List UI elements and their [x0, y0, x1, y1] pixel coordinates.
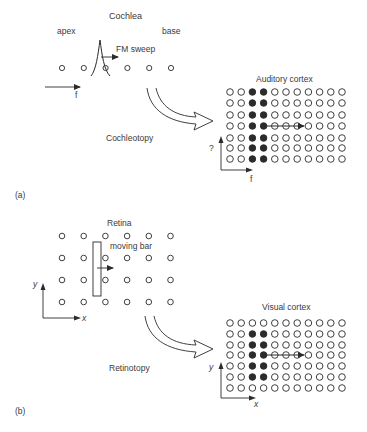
neuron [283, 135, 290, 142]
neuron [339, 145, 346, 152]
auditory-axes [221, 140, 250, 170]
neuron [339, 385, 346, 392]
neuron [227, 320, 234, 327]
neuron [294, 156, 301, 163]
active-neuron [249, 145, 256, 152]
neuron [168, 255, 174, 261]
cochleotopy-arrow-icon [147, 88, 213, 130]
neuron [316, 89, 323, 96]
moving-bar-icon [93, 242, 101, 296]
neuron [124, 255, 130, 261]
neuron [339, 112, 346, 119]
neuron [272, 100, 279, 107]
neuron [168, 65, 173, 70]
active-neuron [249, 363, 256, 370]
neuron [305, 342, 312, 349]
auditory-cortex-grid [227, 89, 346, 163]
neuron [339, 123, 346, 130]
neuron [339, 363, 346, 370]
active-neuron [249, 374, 256, 381]
neuron [305, 112, 312, 119]
neuron [103, 277, 109, 283]
neuron [316, 363, 323, 370]
neuron [227, 331, 234, 338]
neuron [272, 145, 279, 152]
active-neuron [249, 100, 256, 107]
neuron [305, 123, 312, 130]
neuron [328, 320, 335, 327]
neuron [81, 255, 87, 261]
visual-axes [221, 366, 253, 398]
active-neuron [260, 100, 267, 107]
active-neuron [260, 156, 267, 163]
neuron [316, 320, 323, 327]
neuron [294, 374, 301, 381]
active-neuron [260, 342, 267, 349]
neuron [238, 374, 245, 381]
neuron [283, 145, 290, 152]
active-neuron [260, 374, 267, 381]
neuron [339, 100, 346, 107]
neuron [124, 233, 130, 239]
diagram-canvas [0, 0, 367, 432]
neuron [328, 145, 335, 152]
neuron [283, 100, 290, 107]
neuron [272, 112, 279, 119]
neuron [294, 342, 301, 349]
neuron [339, 156, 346, 163]
neuron [339, 331, 346, 338]
neuron [272, 89, 279, 96]
neuron [227, 145, 234, 152]
neuron [272, 385, 279, 392]
neuron [227, 363, 234, 370]
neuron [294, 89, 301, 96]
neuron [339, 320, 346, 327]
neuron [294, 385, 301, 392]
active-neuron [249, 112, 256, 119]
neuron [168, 277, 174, 283]
neuron [305, 145, 312, 152]
active-neuron [260, 331, 267, 338]
active-neuron [249, 352, 256, 359]
neuron [316, 100, 323, 107]
neuron [249, 385, 256, 392]
neuron [283, 385, 290, 392]
neuron [305, 352, 312, 359]
active-neuron [260, 363, 267, 370]
neuron [227, 100, 234, 107]
neuron [272, 363, 279, 370]
neuron [283, 89, 290, 96]
neuron [305, 374, 312, 381]
neuron [227, 342, 234, 349]
neuron [305, 331, 312, 338]
neuron [294, 145, 301, 152]
neuron [283, 342, 290, 349]
active-neuron [249, 156, 256, 163]
neuron [328, 342, 335, 349]
retina-grid [59, 233, 173, 305]
cochlea-receptors [59, 65, 173, 70]
neuron [238, 331, 245, 338]
neuron [294, 320, 301, 327]
neuron [328, 385, 335, 392]
neuron [103, 233, 109, 239]
neuron [328, 352, 335, 359]
neuron [227, 89, 234, 96]
neuron [316, 145, 323, 152]
neuron [328, 100, 335, 107]
neuron [227, 352, 234, 359]
neuron [146, 277, 152, 283]
neuron [283, 363, 290, 370]
neuron [316, 385, 323, 392]
neuron [238, 112, 245, 119]
neuron [168, 233, 174, 239]
neuron [146, 299, 152, 305]
neuron [238, 363, 245, 370]
active-neuron [249, 123, 256, 130]
neuron [59, 65, 64, 70]
neuron [328, 135, 335, 142]
neuron [238, 135, 245, 142]
neuron [328, 123, 335, 130]
neuron [328, 331, 335, 338]
neuron [316, 374, 323, 381]
